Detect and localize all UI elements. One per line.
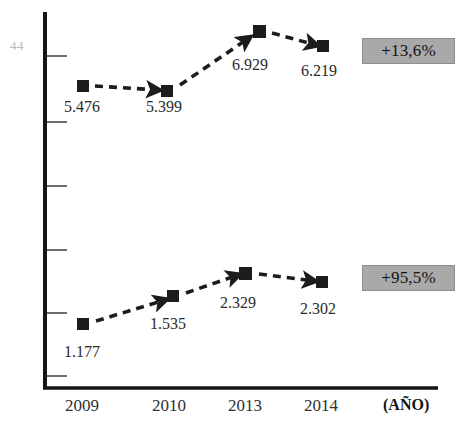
segment-2013-2014: [272, 33, 316, 45]
value-label-bottom-2009: 1.177: [64, 343, 100, 361]
x-axis-title: (AÑO): [383, 396, 429, 414]
chart-container: 44: [0, 0, 463, 439]
segment-2010-2013: [186, 275, 238, 293]
segment-2013-2014: [259, 274, 314, 281]
value-label-bottom-2014: 2.302: [300, 300, 336, 318]
segment-2009-2010: [95, 86, 158, 90]
data-point-marker[interactable]: [239, 267, 252, 280]
value-label-top-2014: 6.219: [301, 62, 337, 80]
data-point-marker[interactable]: [253, 25, 266, 38]
data-point-marker[interactable]: [161, 85, 173, 97]
value-label-bottom-2013: 2.329: [220, 294, 256, 312]
data-point-marker[interactable]: [77, 80, 89, 92]
growth-badge-inferior[interactable]: +95,5%: [362, 265, 455, 291]
data-point-marker[interactable]: [167, 290, 179, 302]
value-label-top-2013: 6.929: [232, 56, 268, 74]
x-tick-label-2010: 2010: [152, 396, 186, 416]
x-tick-label-2014: 2014: [304, 396, 338, 416]
value-label-top-2010: 5.399: [146, 98, 182, 116]
data-point-marker[interactable]: [317, 40, 329, 52]
growth-badge-superior[interactable]: +13,6%: [362, 38, 455, 64]
x-tick-label-2009: 2009: [65, 396, 99, 416]
value-label-bottom-2010: 1.535: [150, 315, 186, 333]
series-inferior: [77, 267, 328, 330]
x-tick-label-2013: 2013: [228, 396, 262, 416]
data-point-marker[interactable]: [316, 276, 328, 288]
data-point-marker[interactable]: [77, 318, 89, 330]
value-label-top-2009: 5.476: [64, 98, 100, 116]
series-superior: [77, 25, 329, 97]
